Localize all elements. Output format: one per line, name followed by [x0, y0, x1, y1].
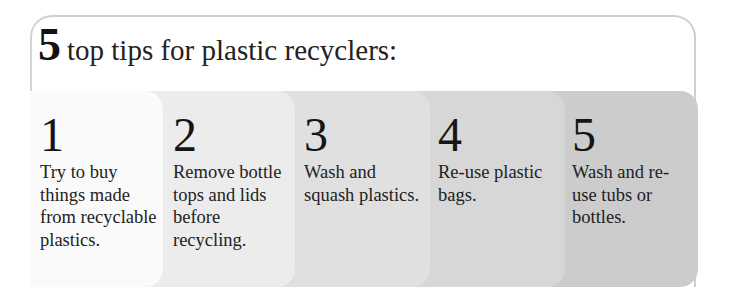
tip-number: 1 [40, 113, 163, 159]
tip-card-3: 3 Wash and squash plastics. [280, 91, 430, 287]
tip-text: Try to buy things made from recyclable p… [40, 161, 160, 251]
tip-text: Re-use plastic bags. [438, 161, 568, 206]
tip-card-4: 4 Re-use plastic bags. [415, 91, 565, 287]
tip-number: 2 [173, 113, 295, 159]
tip-card-5: 5 Wash and re-use tubs or bottles. [550, 91, 698, 287]
tip-text: Remove bottle tops and lids before recyc… [173, 161, 291, 251]
tips-list: 1 Try to buy things made from recyclable… [30, 91, 698, 287]
tip-card-1: 1 Try to buy things made from recyclable… [30, 91, 163, 287]
title-number: 5 [38, 19, 61, 70]
tip-number: 4 [438, 113, 565, 159]
page-title: 5top tips for plastic recyclers: [38, 22, 397, 68]
tip-card-2: 2 Remove bottle tops and lids before rec… [145, 91, 295, 287]
tip-text: Wash and re-use tubs or bottles. [572, 161, 690, 229]
tip-text: Wash and squash plastics. [304, 161, 422, 206]
tip-number: 5 [572, 113, 698, 159]
tip-number: 3 [304, 113, 430, 159]
title-text: top tips for plastic recyclers: [67, 34, 397, 66]
